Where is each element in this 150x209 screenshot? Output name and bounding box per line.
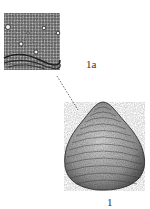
- surface-detail-square: [4, 13, 60, 70]
- figure-plate: 1a 1: [0, 0, 150, 209]
- fossil-illustration: [0, 0, 150, 209]
- shell-drawing: [65, 102, 145, 190]
- leader-line: [57, 76, 78, 110]
- figure-label-1: 1: [107, 196, 113, 208]
- figure-label-1a: 1a: [86, 58, 96, 70]
